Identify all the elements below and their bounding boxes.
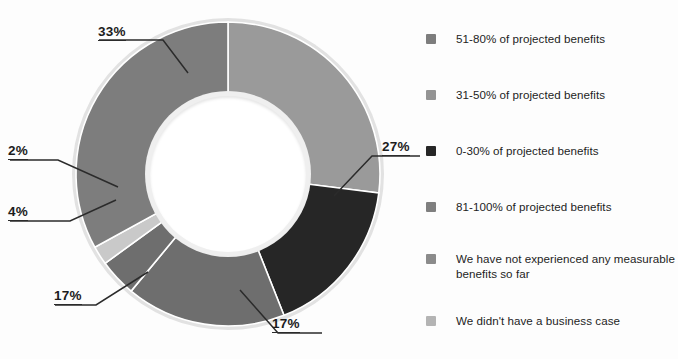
data-label-17-bottom: 17% <box>272 316 300 333</box>
data-label-27: 27% <box>382 139 410 156</box>
data-label-2: 2% <box>8 143 28 160</box>
chart-legend: 51-80% of projected benefits31-50% of pr… <box>426 24 678 344</box>
legend-swatch-icon <box>426 254 436 264</box>
legend-item-label: 31-50% of projected benefits <box>456 88 605 103</box>
legend-swatch-icon <box>426 90 436 100</box>
legend-item[interactable]: We have not experienced any measurable b… <box>426 252 678 281</box>
donut-chart: 33% 27% 2% 4% 17% 17% <box>0 0 430 359</box>
data-label-4: 4% <box>8 204 28 221</box>
legend-item-label: We didn't have a business case <box>456 314 620 329</box>
legend-item[interactable]: 0-30% of projected benefits <box>426 144 678 159</box>
donut-graphic <box>72 18 384 330</box>
data-label-17-left: 17% <box>54 288 82 305</box>
legend-item[interactable]: 51-80% of projected benefits <box>426 32 678 47</box>
chart-page: 33% 27% 2% 4% 17% 17% 51-80% of projecte… <box>0 0 678 359</box>
legend-item-label: We have not experienced any measurable b… <box>456 252 678 281</box>
legend-item[interactable]: We didn't have a business case <box>426 314 678 329</box>
legend-item-label: 51-80% of projected benefits <box>456 32 605 47</box>
legend-swatch-icon <box>426 146 436 156</box>
legend-swatch-icon <box>426 34 436 44</box>
legend-swatch-icon <box>426 316 436 326</box>
legend-swatch-icon <box>426 202 436 212</box>
legend-item[interactable]: 81-100% of projected benefits <box>426 200 678 215</box>
legend-item[interactable]: 31-50% of projected benefits <box>426 88 678 103</box>
legend-item-label: 81-100% of projected benefits <box>456 200 612 215</box>
data-label-33: 33% <box>98 24 126 41</box>
legend-item-label: 0-30% of projected benefits <box>456 144 599 159</box>
donut-center-hole <box>150 96 306 252</box>
